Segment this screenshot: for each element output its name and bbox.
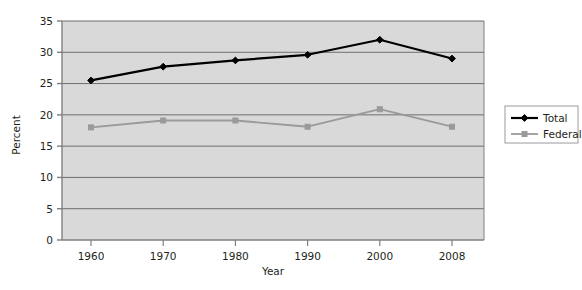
data-point: [305, 124, 310, 129]
y-tick-label: 15: [40, 140, 53, 152]
chart-canvas: 05101520253035 196019701980199020002008 …: [0, 0, 582, 290]
y-tick-label: 20: [40, 109, 53, 121]
y-tick-label: 0: [46, 234, 53, 246]
legend-swatch-marker: [522, 132, 527, 137]
y-tick-label: 30: [40, 46, 53, 58]
x-tick-label: 1970: [150, 250, 177, 262]
legend: TotalFederal: [505, 106, 582, 143]
y-tick-label: 5: [46, 203, 53, 215]
y-tick-label: 35: [40, 15, 53, 27]
data-point: [450, 124, 455, 129]
data-point: [161, 118, 166, 123]
legend-item-label: Total: [542, 112, 568, 124]
y-axis-ticks: 05101520253035: [40, 15, 62, 246]
x-tick-label: 2000: [366, 250, 393, 262]
x-tick-label: 1960: [78, 250, 105, 262]
y-tick-label: 10: [40, 171, 53, 183]
x-axis-ticks: 196019701980199020002008: [78, 240, 466, 262]
x-tick-label: 1990: [294, 250, 321, 262]
x-axis-title: Year: [261, 265, 285, 277]
y-tick-label: 25: [40, 77, 53, 89]
y-axis-title: Percent: [10, 115, 22, 155]
legend-item-label: Federal: [543, 128, 582, 140]
data-point: [89, 125, 94, 130]
data-point: [377, 107, 382, 112]
plot-area-background: [62, 21, 484, 240]
data-point: [233, 118, 238, 123]
chart-figure: 05101520253035 196019701980199020002008 …: [0, 0, 582, 290]
x-tick-label: 1980: [222, 250, 249, 262]
x-tick-label: 2008: [439, 250, 466, 262]
